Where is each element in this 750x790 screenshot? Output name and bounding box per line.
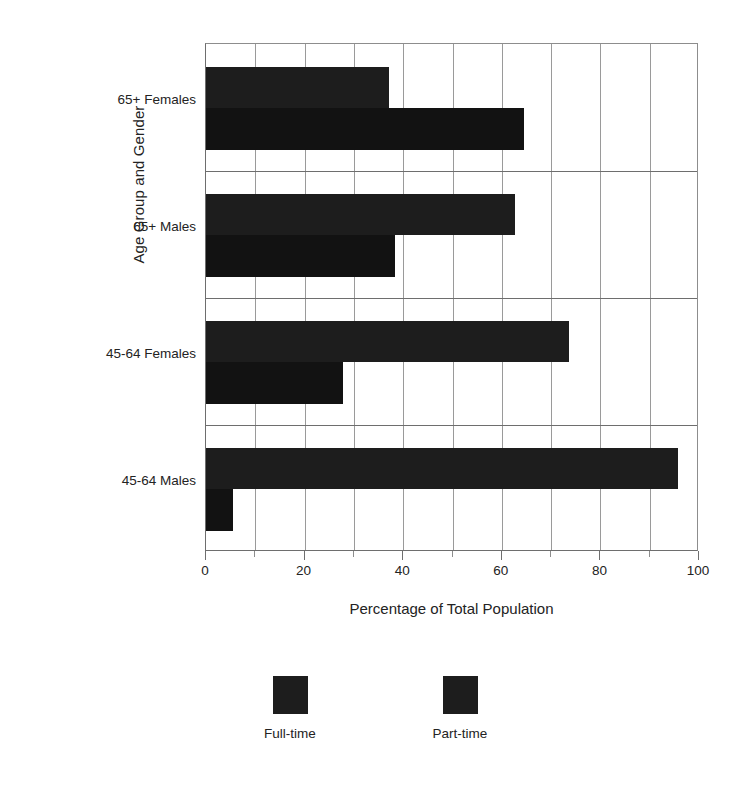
x-tick-50 [452,551,453,557]
y-tick-label-45-64-males: 45-64 Males [16,473,196,488]
x-tick-100 [698,551,699,560]
bar-group-45-64-females [206,298,697,425]
x-tick-label-40: 40 [372,563,432,578]
bar-65plus-males-part-time [206,235,395,277]
x-tick-40 [402,551,403,560]
legend-swatch-full-time [273,676,308,714]
bar-chart-figure: Age Group and Gender 65+ Females 65+ Mal… [0,0,750,790]
x-tick-label-80: 80 [569,563,629,578]
x-tick-label-20: 20 [274,563,334,578]
x-tick-label-60: 60 [471,563,531,578]
legend-swatch-part-time [443,676,478,714]
x-tick-80 [599,551,600,560]
legend-entry-part-time: Part-time [385,676,535,741]
y-axis-tick-labels: 65+ Females 65+ Males 45-64 Females 45-6… [8,43,196,551]
y-tick-label-65plus-males: 65+ Males [16,219,196,234]
legend-label-part-time: Part-time [385,726,535,741]
x-tick-0 [205,551,206,560]
bar-65plus-males-full-time [206,194,515,235]
chart-legend: Full-time Part-time [205,676,698,776]
bar-45-64-males-full-time [206,448,678,489]
x-tick-90 [649,551,650,557]
bar-group-65plus-females [206,44,697,171]
x-tick-10 [254,551,255,557]
x-tick-label-100: 100 [668,563,728,578]
x-tick-60 [501,551,502,560]
x-tick-30 [353,551,354,557]
x-axis-title: Percentage of Total Population [205,600,698,617]
x-tick-70 [550,551,551,557]
y-tick-label-65plus-females: 65+ Females [16,92,196,107]
bar-group-65plus-males [206,171,697,298]
x-tick-label-0: 0 [175,563,235,578]
plot-area [205,43,698,551]
bar-65plus-females-full-time [206,67,389,108]
legend-label-full-time: Full-time [215,726,365,741]
bar-45-64-males-part-time [206,489,233,531]
bar-65plus-females-part-time [206,108,524,150]
bar-45-64-females-full-time [206,321,569,362]
bar-45-64-females-part-time [206,362,343,404]
y-tick-label-45-64-females: 45-64 Females [16,346,196,361]
legend-entry-full-time: Full-time [215,676,365,741]
bar-group-45-64-males [206,425,697,552]
x-tick-20 [304,551,305,560]
